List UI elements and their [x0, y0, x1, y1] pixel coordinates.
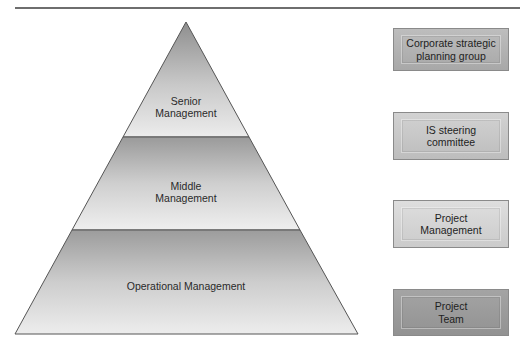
box-project-team: Project Team	[393, 289, 509, 336]
tier-middle-label: Middle Management	[136, 180, 236, 204]
tier-operational-label: Operational Management	[96, 280, 276, 292]
box-is-steering-committee: IS steering committee	[393, 112, 509, 160]
tier-senior-label: Senior Management	[136, 95, 236, 119]
box-is-steering-label: IS steering committee	[426, 124, 476, 149]
management-pyramid	[0, 0, 380, 345]
box-project-management: Project Management	[393, 200, 509, 248]
tier-senior-shape	[123, 22, 249, 137]
box-project-team-label: Project Team	[435, 300, 468, 325]
box-corporate-strategic-planning: Corporate strategic planning group	[393, 28, 509, 71]
box-corporate-label: Corporate strategic planning group	[406, 37, 495, 62]
box-project-management-label: Project Management	[420, 212, 481, 237]
